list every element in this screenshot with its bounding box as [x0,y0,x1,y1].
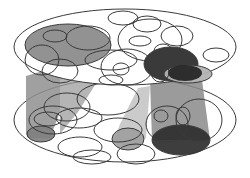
ellipse-layers-diagram [0,0,250,178]
top-dark-overlap [168,65,202,81]
bottom-gray-middle [112,128,144,150]
bottom-dark-right [152,125,210,155]
